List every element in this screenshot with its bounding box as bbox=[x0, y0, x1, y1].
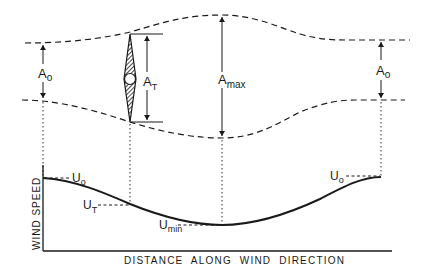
streamtube-upper-boundary bbox=[25, 15, 410, 43]
u-o-left-label: Uo bbox=[72, 171, 86, 187]
streamtube-lower-boundary bbox=[22, 100, 405, 138]
a-t-label: AT bbox=[143, 74, 158, 92]
x-axis-label: DISTANCE ALONG WIND DIRECTION bbox=[124, 255, 345, 266]
y-axis-label: WIND SPEED bbox=[31, 177, 42, 250]
wind-speed-curve bbox=[43, 177, 381, 225]
speed-leaders bbox=[44, 176, 380, 225]
turbine-rotor-icon bbox=[124, 34, 136, 122]
u-t-label: UT bbox=[83, 198, 98, 215]
a-o-left-label: Ao bbox=[38, 66, 53, 83]
u-o-right-label: Uo bbox=[330, 169, 344, 185]
a-o-right-label: Ao bbox=[376, 63, 391, 80]
a-max-label: Amax bbox=[218, 72, 246, 90]
wind-turbine-diagram: AT Amax Ao Ao Uo UT Umin Uo W bbox=[0, 0, 425, 274]
